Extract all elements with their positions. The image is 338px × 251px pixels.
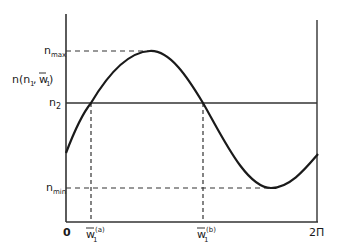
x-tick-zero: 0 — [63, 226, 71, 239]
n-max-label: n max — [44, 44, 66, 59]
x-tick-w-a: w 1 (a) — [86, 226, 105, 244]
sinusoid-curve — [66, 51, 318, 188]
svg-text:n: n — [46, 181, 53, 194]
svg-text:min: min — [53, 188, 66, 196]
y-axis-label: n(n 1 , w 1 ) — [12, 73, 53, 88]
sinusoid-diagram: n max n 2 n min n(n 1 , w 1 ) 0 w 1 (a) … — [0, 0, 338, 251]
svg-text:): ) — [49, 73, 53, 86]
svg-text:1: 1 — [204, 236, 208, 244]
svg-text:2: 2 — [56, 102, 61, 111]
x-tick-w-b: w 1 (b) — [197, 226, 216, 244]
svg-text:,: , — [33, 73, 37, 86]
x-tick-two-pi: 2Π — [309, 226, 324, 239]
n-2-label: n 2 — [49, 96, 61, 111]
svg-text:n(n: n(n — [12, 73, 30, 86]
svg-text:(b): (b) — [206, 226, 216, 234]
svg-text:max: max — [51, 51, 66, 59]
svg-text:n: n — [44, 44, 51, 57]
svg-text:1: 1 — [93, 236, 97, 244]
svg-text:(a): (a) — [95, 226, 105, 234]
svg-text:n: n — [49, 96, 56, 109]
n-min-label: n min — [46, 181, 66, 196]
